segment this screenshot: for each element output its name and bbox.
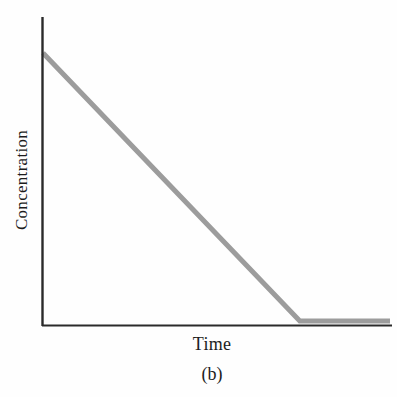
- figure-panel: Concentration Time (b): [0, 0, 397, 397]
- x-axis-label: Time: [150, 334, 274, 355]
- y-axis-label: Concentration: [0, 110, 44, 250]
- y-axis-label-text: Concentration: [12, 130, 32, 230]
- figure-caption: (b): [150, 364, 274, 385]
